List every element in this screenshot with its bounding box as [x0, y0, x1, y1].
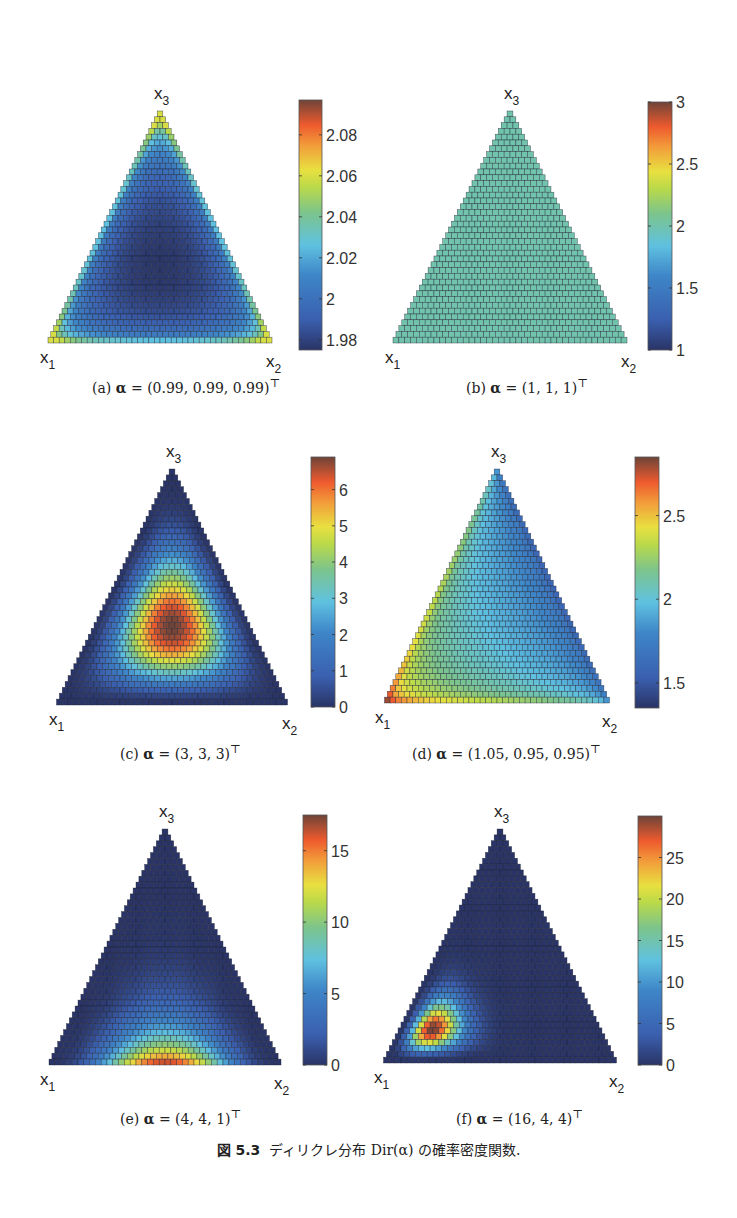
heatmap-cell: [198, 646, 204, 652]
heatmap-cell: [140, 192, 146, 198]
heatmap-cell: [151, 864, 157, 870]
heatmap-cell: [530, 297, 536, 303]
heatmap-cell: [163, 157, 169, 163]
heatmap-cell: [160, 593, 166, 599]
heatmap-cell: [557, 326, 563, 332]
heatmap-cell: [177, 1024, 183, 1030]
heatmap-cell: [478, 169, 484, 175]
heatmap-cell: [485, 981, 491, 987]
heatmap-cell: [158, 693, 164, 699]
heatmap-cell: [142, 882, 148, 888]
heatmap-cell: [98, 1041, 104, 1047]
heatmap-cell: [181, 681, 187, 687]
heatmap-cell: [186, 528, 192, 534]
heatmap-cell: [169, 599, 175, 605]
heatmap-cell: [498, 233, 504, 239]
heatmap-cell: [427, 633, 433, 639]
heatmap-cell: [124, 250, 130, 256]
heatmap-cell: [250, 302, 256, 308]
heatmap-cell: [223, 977, 229, 983]
heatmap-cell: [110, 268, 116, 274]
heatmap-cell: [194, 279, 200, 285]
heatmap-cell: [510, 279, 516, 285]
heatmap-cell: [446, 326, 452, 332]
heatmap-cell: [538, 923, 544, 929]
heatmap-cell: [436, 987, 442, 993]
heatmap-cell: [68, 687, 74, 693]
heatmap-cell: [197, 971, 203, 977]
heatmap-cell: [579, 1028, 585, 1034]
heatmap-cell: [182, 977, 188, 983]
heatmap-cell: [431, 297, 437, 303]
heatmap-cell: [564, 975, 570, 981]
heatmap-cell: [210, 326, 216, 332]
heatmap-cell: [61, 1059, 67, 1065]
heatmap-cell: [542, 308, 548, 314]
heatmap-cell: [134, 540, 140, 546]
heatmap-cell: [536, 627, 542, 633]
heatmap-cell: [506, 870, 512, 876]
heatmap-cell: [404, 1051, 410, 1057]
heatmap-cell: [534, 598, 540, 604]
heatmap-cell: [107, 1036, 113, 1042]
heatmap-cell: [205, 279, 211, 285]
heatmap-cell: [244, 622, 250, 628]
heatmap-cell: [210, 658, 216, 664]
heatmap-cell: [422, 291, 428, 297]
heatmap-cell: [244, 291, 250, 297]
heatmap-cell: [119, 1012, 125, 1018]
heatmap-cell: [475, 326, 481, 332]
heatmap-cell: [212, 628, 218, 634]
heatmap-cell: [196, 215, 202, 221]
heatmap-cell: [79, 308, 85, 314]
heatmap-cell: [530, 181, 536, 187]
heatmap-cell: [604, 697, 610, 703]
heatmap-cell: [185, 308, 191, 314]
heatmap-cell: [168, 912, 174, 918]
heatmap-cell: [154, 152, 160, 158]
heatmap-cell: [162, 841, 168, 847]
heatmap-cell: [528, 326, 534, 332]
heatmap-cell: [104, 233, 110, 239]
heatmap-cell: [184, 546, 190, 552]
heatmap-cell: [156, 935, 162, 941]
heatmap-cell: [159, 1000, 165, 1006]
heatmap-cell: [490, 169, 496, 175]
heatmap-cell: [444, 621, 450, 627]
heatmap-cell: [550, 598, 556, 604]
heatmap-cell: [612, 320, 618, 326]
heatmap-cell: [163, 134, 169, 140]
heatmap-cell: [106, 622, 112, 628]
heatmap-cell: [191, 331, 197, 337]
heatmap-cell: [554, 250, 560, 256]
heatmap-cell: [165, 859, 171, 865]
heatmap-cell: [469, 256, 475, 262]
heatmap-cell: [435, 627, 441, 633]
heatmap-cell: [107, 331, 113, 337]
heatmap-cell: [500, 870, 506, 876]
heatmap-cell: [460, 227, 466, 233]
heatmap-cell: [180, 1053, 186, 1059]
heatmap-cell: [504, 186, 510, 192]
heatmap-cell: [243, 1006, 249, 1012]
heatmap-cell: [542, 604, 548, 610]
heatmap-cell: [509, 852, 515, 858]
heatmap-cell: [108, 628, 114, 634]
heatmap-cell: [180, 982, 186, 988]
heatmap-cell: [520, 674, 526, 680]
heatmap-cell: [104, 959, 110, 965]
heatmap-cell: [571, 320, 577, 326]
heatmap-cell: [410, 668, 416, 674]
heatmap-cell: [118, 215, 124, 221]
heatmap-cell: [491, 510, 497, 516]
heatmap-cell: [607, 308, 613, 314]
heatmap-cell: [93, 1030, 99, 1036]
heatmap-cell: [132, 233, 138, 239]
heatmap-cell: [113, 1036, 119, 1042]
heatmap-cell: [178, 569, 184, 575]
heatmap-cell: [567, 691, 573, 697]
heatmap-cell: [501, 320, 507, 326]
heatmap-cell: [565, 615, 571, 621]
heatmap-cell: [497, 852, 503, 858]
heatmap-cell: [145, 888, 151, 894]
